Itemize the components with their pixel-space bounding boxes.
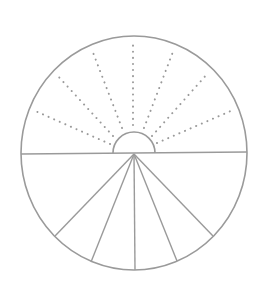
dotted-ray-5 <box>144 49 174 128</box>
solid-rays <box>55 154 213 270</box>
solid-ray-5 <box>134 154 213 236</box>
solid-ray-1 <box>55 154 134 236</box>
inner-semicircle <box>113 132 155 153</box>
dotted-ray-2 <box>57 75 113 136</box>
dotted-ray-7 <box>157 110 233 143</box>
dotted-rays <box>33 42 233 144</box>
solid-ray-3 <box>134 154 135 270</box>
solid-ray-4 <box>134 154 177 261</box>
horizontal-diameter <box>21 152 247 154</box>
dotted-ray-1 <box>33 110 110 144</box>
solid-ray-2 <box>91 154 134 262</box>
circle-diagram <box>0 0 264 295</box>
dotted-ray-3 <box>92 50 122 128</box>
